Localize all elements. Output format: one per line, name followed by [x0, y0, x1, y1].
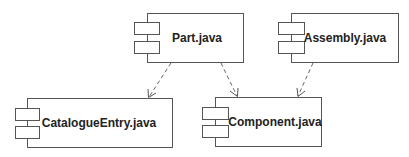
component-diagram-canvas	[0, 0, 409, 157]
component-label-assembly: Assembly.java	[304, 31, 387, 45]
component-label-part: Part.java	[172, 31, 222, 45]
dependency-part-to-component	[221, 63, 238, 97]
dependency-part-to-catalogue	[148, 63, 171, 98]
dependency-assembly-to-component	[297, 63, 313, 97]
component-label-catalogue-entry: CatalogueEntry.java	[42, 116, 156, 130]
component-label-component: Component.java	[228, 115, 321, 129]
